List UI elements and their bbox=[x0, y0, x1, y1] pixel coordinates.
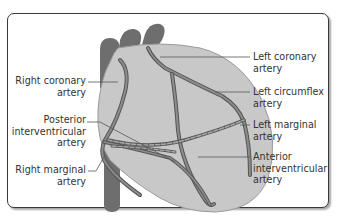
label-anterior-interventricular-artery: Anterior interventricular artery bbox=[253, 151, 327, 186]
label-left-coronary-artery: Left coronary artery bbox=[253, 51, 316, 74]
label-right-coronary-artery: Right coronary artery bbox=[14, 75, 86, 98]
label-left-circumflex-artery: Left circumflex artery bbox=[253, 86, 324, 109]
label-right-marginal-artery: Right marginal artery bbox=[14, 164, 86, 187]
label-left-marginal-artery: Left marginal artery bbox=[253, 119, 316, 142]
heart-illustration bbox=[0, 0, 338, 221]
label-posterior-interventricular-artery: Posterior interventricular artery bbox=[8, 114, 86, 149]
